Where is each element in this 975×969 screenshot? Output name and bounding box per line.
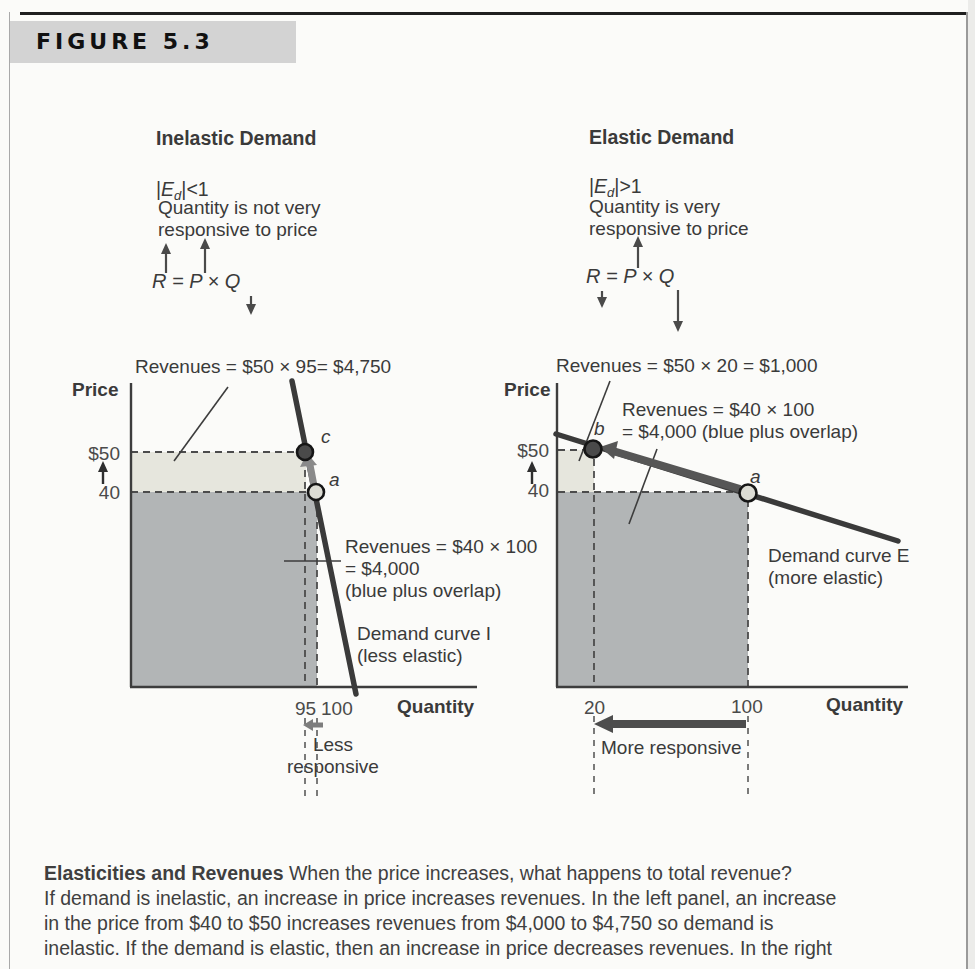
caption-body: If demand is inelastic, an increase in p… bbox=[44, 886, 946, 961]
left-point-a-label: a bbox=[329, 469, 340, 491]
right-responsiveness-note: Quantity is very responsive to price bbox=[589, 196, 748, 240]
left-tick-100: 100 bbox=[321, 698, 353, 720]
right-x-axis-label: Quantity bbox=[826, 694, 903, 716]
up-arrow-icon bbox=[161, 243, 171, 254]
figure-shapes bbox=[0, 0, 975, 969]
left-point-c-label: c bbox=[321, 426, 331, 448]
right-tick-20: 20 bbox=[584, 697, 605, 719]
right-chart bbox=[527, 381, 908, 797]
right-curve-label: Demand curve E (more elastic) bbox=[768, 545, 910, 589]
left-revenue-formula: R = P × Q bbox=[152, 270, 240, 292]
right-point-a-label: a bbox=[750, 466, 761, 488]
left-responsive-note: Less responsive bbox=[268, 734, 398, 778]
price-rise-arrow bbox=[613, 451, 740, 489]
right-y-axis-label: Price bbox=[504, 379, 550, 401]
down-arrow-icon bbox=[246, 304, 256, 315]
point-b bbox=[585, 441, 602, 458]
down-arrow-icon bbox=[597, 297, 607, 308]
right-revenue-mid-label: Revenues = $40 × 100 = $4,000 (blue plus… bbox=[622, 399, 858, 443]
price-rise-arrow bbox=[310, 465, 314, 486]
price-up-arrowhead-icon bbox=[527, 461, 537, 472]
left-tick-50: $50 bbox=[74, 443, 120, 465]
figure-page: FIGURE 5.3 bbox=[0, 0, 975, 969]
right-tick-100: 100 bbox=[731, 696, 763, 718]
right-tick-40: 40 bbox=[503, 480, 549, 502]
figure-caption: Elasticities and Revenues When the price… bbox=[44, 861, 946, 961]
right-panel-title: Elastic Demand bbox=[589, 126, 734, 148]
right-revenue-formula: R = P × Q bbox=[586, 265, 674, 287]
right-tick-50: $50 bbox=[503, 440, 549, 462]
caption-lead: Elasticities and Revenues bbox=[44, 862, 284, 884]
down-arrow-icon bbox=[673, 321, 683, 332]
left-y-axis-label: Price bbox=[72, 379, 118, 401]
right-responsive-note: More responsive bbox=[601, 737, 741, 759]
right-point-b-label: b bbox=[594, 418, 605, 440]
point-c bbox=[297, 444, 313, 460]
right-revenue-top-label: Revenues = $50 × 20 = $1,000 bbox=[556, 355, 817, 377]
pointer-line-revenue-top bbox=[174, 387, 228, 461]
blue-revenue-region bbox=[558, 492, 748, 687]
left-revenue-top-label: Revenues = $50 × 95= $4,750 bbox=[135, 356, 391, 378]
overlap-region bbox=[131, 452, 306, 492]
left-revenue-mid-label: Revenues = $40 × 100 = $4,000 (blue plus… bbox=[345, 536, 537, 602]
left-tick-40: 40 bbox=[74, 482, 120, 504]
blue-revenue-region bbox=[131, 492, 317, 687]
caption-line1: When the price increases, what happens t… bbox=[284, 862, 792, 884]
left-curve-label: Demand curve I (less elastic) bbox=[357, 623, 491, 667]
left-panel-title: Inelastic Demand bbox=[156, 127, 316, 149]
point-a bbox=[308, 484, 324, 500]
left-x-axis-label: Quantity bbox=[397, 696, 474, 718]
left-tick-95: 95 bbox=[295, 698, 316, 720]
left-responsiveness-note: Quantity is not very responsive to price bbox=[158, 197, 321, 241]
